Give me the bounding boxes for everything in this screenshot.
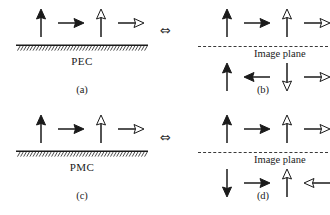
equivalence-arrow-icon: ⇔ bbox=[160, 131, 171, 144]
solid-up-arrow bbox=[26, 112, 56, 146]
solid-up-arrow bbox=[26, 6, 56, 40]
panel-caption-c: (c) bbox=[12, 190, 152, 201]
hollow-right-arrow bbox=[302, 6, 330, 40]
arrow-row-above bbox=[198, 112, 328, 146]
solid-right-arrow bbox=[242, 6, 272, 40]
panel-a: PEC (a) bbox=[12, 2, 152, 106]
panel-b: Image plane (b) bbox=[198, 2, 328, 106]
hollow-right-arrow bbox=[116, 112, 146, 146]
image-theory-figure: PEC (a) ⇔ Image plane (b) PMC (c) ⇔ Imag… bbox=[0, 0, 330, 215]
solid-right-arrow bbox=[56, 6, 86, 40]
hollow-up-arrow bbox=[272, 6, 302, 40]
pmc-ground-plane bbox=[16, 150, 148, 159]
boundary-label-image-plane: Image plane bbox=[254, 154, 306, 165]
hollow-up-arrow bbox=[272, 112, 302, 146]
hollow-right-arrow bbox=[302, 112, 330, 146]
pec-ground-plane bbox=[16, 44, 148, 53]
solid-right-arrow bbox=[242, 112, 272, 146]
equivalence-arrow-icon: ⇔ bbox=[160, 24, 171, 37]
boundary-label-pec: PEC bbox=[12, 55, 152, 67]
panel-c: PMC (c) bbox=[12, 108, 152, 212]
arrow-row-above bbox=[12, 112, 152, 146]
hollow-up-arrow bbox=[86, 112, 116, 146]
boundary-label-image-plane: Image plane bbox=[254, 48, 306, 59]
panel-caption-d: (d) bbox=[198, 190, 328, 201]
hollow-up-arrow bbox=[86, 6, 116, 40]
solid-right-arrow bbox=[56, 112, 86, 146]
hollow-right-arrow bbox=[116, 6, 146, 40]
solid-up-arrow bbox=[212, 112, 242, 146]
boundary-label-pmc: PMC bbox=[12, 161, 152, 173]
arrow-row-above bbox=[12, 6, 152, 40]
panel-d: Image plane (d) bbox=[198, 108, 328, 212]
solid-up-arrow bbox=[212, 6, 242, 40]
panel-caption-b: (b) bbox=[198, 84, 328, 95]
panel-caption-a: (a) bbox=[12, 84, 152, 95]
arrow-row-above bbox=[198, 6, 328, 40]
